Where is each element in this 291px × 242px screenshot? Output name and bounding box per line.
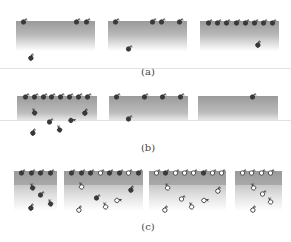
filled-molecule-icon [20, 17, 28, 25]
filled-molecule-icon [57, 92, 65, 100]
open-molecule-icon [249, 205, 257, 213]
filled-molecule-icon [28, 168, 36, 176]
filled-molecule-icon [125, 44, 133, 52]
filled-molecule-icon [200, 168, 208, 176]
open-molecule-icon [201, 196, 209, 204]
filled-molecule-icon [46, 117, 54, 125]
divider-b [0, 120, 291, 121]
filled-molecule-icon [29, 128, 37, 136]
filled-molecule-icon [214, 18, 222, 26]
filled-molecule-icon [40, 92, 48, 100]
filled-molecule-icon [149, 17, 157, 25]
open-molecule-icon [258, 168, 266, 176]
filled-molecule-icon [84, 92, 92, 100]
open-molecule-icon [190, 168, 198, 176]
label-c: (c) [141, 221, 154, 232]
filled-molecule-icon [116, 168, 124, 176]
open-molecule-icon [114, 196, 122, 204]
filled-molecule-icon [141, 92, 149, 100]
filled-molecule-icon [46, 199, 54, 207]
filled-molecule-icon [75, 92, 83, 100]
open-molecule-icon [77, 182, 85, 190]
filled-molecule-icon [37, 190, 45, 198]
open-molecule-icon [218, 168, 226, 176]
filled-molecule-icon [37, 168, 45, 176]
open-molecule-icon [187, 202, 195, 210]
filled-molecule-icon [87, 168, 95, 176]
open-molecule-icon [153, 168, 161, 176]
open-molecule-icon [267, 168, 275, 176]
filled-molecule-icon [68, 116, 76, 124]
open-molecule-icon [163, 183, 171, 191]
open-molecule-icon [266, 197, 274, 205]
filled-molecule-icon [28, 183, 36, 191]
filled-molecule-icon [251, 18, 259, 26]
open-molecule-icon [161, 205, 169, 213]
panel-b-3 [198, 96, 278, 120]
filled-molecule-icon [127, 185, 135, 193]
filled-molecule-icon [55, 125, 63, 133]
panel-a-1 [16, 21, 95, 51]
filled-molecule-icon [48, 92, 56, 100]
filled-molecule-icon [159, 92, 167, 100]
filled-molecule-icon [254, 40, 262, 48]
filled-molecule-icon [260, 18, 268, 26]
filled-molecule-icon [233, 18, 241, 26]
filled-molecule-icon [81, 108, 89, 116]
open-molecule-icon [125, 168, 133, 176]
filled-molecule-icon [27, 53, 35, 61]
label-b: (b) [141, 142, 155, 153]
open-molecule-icon [178, 194, 186, 202]
filled-molecule-icon [18, 168, 26, 176]
filled-molecule-icon [177, 92, 185, 100]
filled-molecule-icon [47, 168, 55, 176]
filled-molecule-icon [68, 168, 76, 176]
open-molecule-icon [248, 168, 256, 176]
filled-molecule-icon [176, 17, 184, 25]
open-molecule-icon [209, 168, 217, 176]
open-molecule-icon [101, 202, 109, 210]
filled-molecule-icon [269, 18, 277, 26]
filled-molecule-icon [223, 18, 231, 26]
panel-a-2 [108, 21, 187, 51]
filled-molecule-icon [22, 92, 30, 100]
open-molecule-icon [259, 189, 267, 197]
filled-molecule-icon [205, 18, 213, 26]
filled-molecule-icon [125, 114, 133, 122]
filled-molecule-icon [113, 92, 121, 100]
filled-molecule-icon [162, 168, 170, 176]
filled-molecule-icon [158, 17, 166, 25]
filled-molecule-icon [93, 193, 101, 201]
filled-molecule-icon [83, 17, 91, 25]
open-molecule-icon [249, 183, 257, 191]
filled-molecule-icon [106, 168, 114, 176]
label-a: (a) [141, 66, 155, 77]
filled-molecule-icon [249, 92, 257, 100]
filled-molecule-icon [112, 17, 120, 25]
filled-molecule-icon [66, 92, 74, 100]
open-molecule-icon [75, 205, 83, 213]
open-molecule-icon [214, 186, 222, 194]
open-molecule-icon [239, 168, 247, 176]
filled-molecule-icon [78, 168, 86, 176]
filled-molecule-icon [31, 92, 39, 100]
filled-molecule-icon [27, 203, 35, 211]
filled-molecule-icon [30, 108, 38, 116]
open-molecule-icon [181, 168, 189, 176]
filled-molecule-icon [135, 168, 143, 176]
open-molecule-icon [97, 168, 105, 176]
filled-molecule-icon [242, 18, 250, 26]
filled-molecule-icon [73, 17, 81, 25]
open-molecule-icon [172, 168, 180, 176]
